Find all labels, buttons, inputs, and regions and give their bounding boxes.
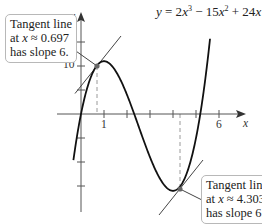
cubic-curve [73, 39, 210, 191]
x-axis-label: x [243, 117, 248, 129]
function-equation: y = 2x3 − 15x2 + 24x [156, 4, 261, 20]
tangent-point-left [94, 63, 99, 68]
callout-pointer-right [180, 189, 202, 200]
x-tick-label-6: 6 [216, 118, 222, 130]
x-axis [57, 110, 238, 118]
x-tick-label-1: 1 [101, 118, 107, 130]
callout-tangent-right: Tangent line at x ≈ 4.303 has slope 6. [201, 175, 262, 224]
tangent-point-right [177, 186, 182, 191]
callout-tangent-left: Tangent line at x ≈ 0.697 has slope 6. [5, 14, 77, 63]
